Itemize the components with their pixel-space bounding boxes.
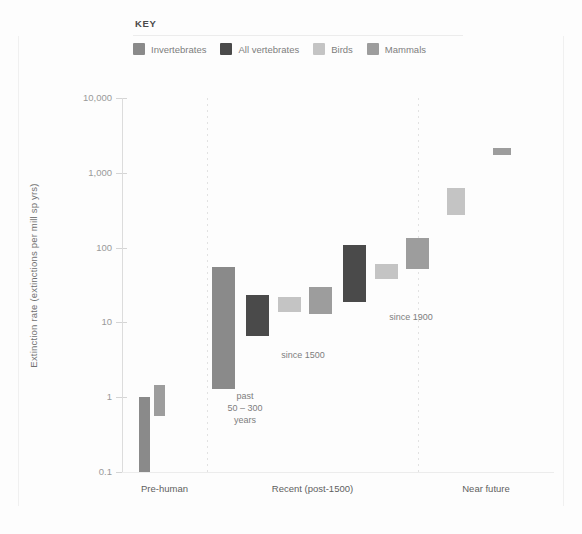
y-tick-0: 10,000 [46,93,112,103]
x-group-label-2: Near future [418,483,554,494]
y-tick-5: 0.1 [46,467,112,477]
y-tick-label-5: 0.1 [46,467,112,477]
y-tick-label-1: 1,000 [46,168,112,178]
annotation-since-1900: since 1900 [376,311,446,323]
y-tick-3: 10 [46,317,112,327]
bar-mammals-8 [406,238,429,269]
y-tick-label-0: 10,000 [46,93,112,103]
x-group-label-0: Pre-human [122,483,207,494]
y-tick-label-3: 10 [46,317,112,327]
plot-area: Extinction rate (extinctions per mill sp… [0,0,582,534]
y-tick-2: 100 [46,243,112,253]
annotation-since-1500: since 1500 [268,349,338,361]
bar-mammals-1 [154,385,165,416]
y-tick-1: 1,000 [46,168,112,178]
bar-mammals-10 [493,148,511,155]
y-axis-label: Extinction rate (extinctions per mill sp… [28,151,39,401]
bar-birds-7 [375,264,398,279]
y-tick-label-4: 1 [46,392,112,402]
bar-invertebrates-2 [212,267,235,389]
bar-birds-9 [447,188,465,215]
bar-mammals-5 [309,287,332,314]
y-tick-label-2: 100 [46,243,112,253]
bar-all-vertebrates-6 [343,245,366,302]
group-separator-2 [418,98,419,474]
annotation-past-50-300-years: past 50 – 300 years [215,390,275,426]
bar-all-vertebrates-3 [246,295,269,336]
bar-invertebrates-0 [139,397,150,472]
x-group-label-1: Recent (post-1500) [207,483,418,494]
x-axis-baseline [122,472,554,473]
bar-birds-4 [278,297,301,312]
group-separator-1 [207,98,208,474]
y-axis-line [122,98,123,472]
chart-figure: KEY InvertebratesAll vertebratesBirdsMam… [0,0,582,534]
y-tick-4: 1 [46,392,112,402]
